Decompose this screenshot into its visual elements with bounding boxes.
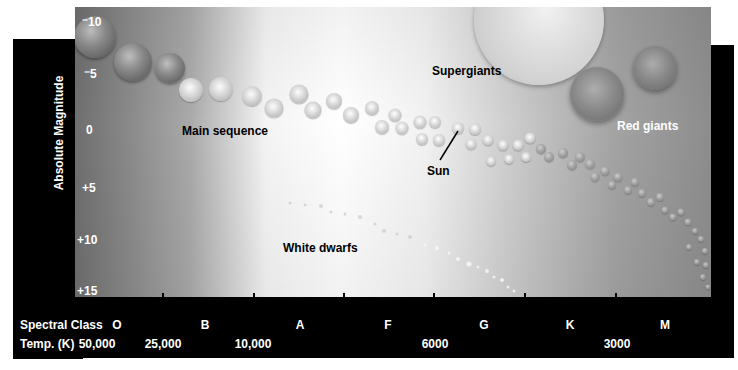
- main-sequence-star: [326, 93, 342, 109]
- spectral-class-a: A: [296, 318, 305, 332]
- white-dwarf: [319, 204, 323, 208]
- main-sequence-star: [429, 116, 441, 128]
- x-tick-mark: [343, 293, 345, 298]
- main-sequence-star: [396, 122, 409, 135]
- main-sequence-label: Main sequence: [182, 124, 268, 138]
- main-sequence-star: [469, 123, 481, 135]
- main-sequence-star: [486, 156, 496, 166]
- main-sequence-star: [647, 198, 655, 206]
- main-sequence-star: [513, 140, 524, 151]
- main-sequence-star: [692, 228, 698, 234]
- spectral-class-m: M: [660, 318, 670, 332]
- white-dwarf: [513, 290, 516, 293]
- main-sequence-star: [209, 77, 233, 101]
- main-sequence-star: [686, 244, 692, 250]
- main-sequence-star: [624, 186, 632, 194]
- spectral-class-f: F: [384, 318, 391, 332]
- y-tick-minus-10: ⁻10: [82, 15, 101, 29]
- red-giants-label: Red giants: [617, 119, 678, 133]
- y-tick-0: 0: [86, 123, 93, 137]
- white-dwarf: [382, 229, 386, 233]
- main-sequence-star: [678, 209, 685, 216]
- main-sequence-star: [698, 236, 704, 242]
- y-tick-plus-10: +10: [77, 233, 97, 247]
- temp-3000: 3000: [604, 337, 631, 351]
- main-sequence-star: [694, 259, 700, 265]
- main-sequence-star: [179, 78, 203, 102]
- white-dwarf: [507, 286, 510, 289]
- main-sequence-star: [558, 148, 568, 158]
- main-sequence-star: [544, 152, 554, 162]
- white-dwarf: [424, 244, 427, 247]
- main-sequence-star: [414, 116, 427, 129]
- frame-right: [709, 45, 734, 358]
- star-b-type: [155, 53, 185, 83]
- x-tick-mark: [253, 293, 255, 298]
- main-sequence-star: [601, 167, 610, 176]
- white-dwarf: [500, 278, 504, 282]
- spectral-class-g: G: [479, 318, 488, 332]
- main-sequence-star: [685, 219, 692, 226]
- main-sequence-star: [290, 85, 309, 104]
- main-sequence-star: [365, 101, 379, 115]
- sun-label: Sun: [427, 164, 450, 178]
- main-sequence-star: [305, 102, 322, 119]
- white-dwarf: [467, 262, 472, 267]
- y-tick-plus-5: +5: [82, 181, 96, 195]
- main-sequence-star: [433, 134, 445, 146]
- white-dwarf: [493, 276, 496, 279]
- main-sequence-star: [343, 107, 359, 123]
- main-sequence-star: [585, 159, 595, 169]
- white-dwarf: [344, 213, 347, 216]
- temp-50000: 50,000: [79, 337, 116, 351]
- star-b-type-large: [114, 43, 152, 81]
- white-dwarf: [330, 211, 333, 214]
- white-dwarf: [485, 269, 489, 273]
- temp-10000: 10,000: [235, 337, 272, 351]
- white-dwarfs-label: White dwarfs: [283, 241, 358, 255]
- spectral-class-k: K: [566, 318, 575, 332]
- main-sequence-star: [416, 133, 428, 145]
- main-sequence-star: [575, 152, 585, 162]
- main-sequence-star: [670, 214, 677, 221]
- spectral-class-o: O: [112, 318, 121, 332]
- main-sequence-star: [242, 86, 262, 106]
- x-tick-mark: [433, 293, 435, 298]
- spectral-class-label: Spectral Class: [20, 318, 103, 332]
- sun-star: [452, 122, 464, 134]
- main-sequence-star: [504, 154, 514, 164]
- main-sequence-star: [567, 160, 577, 170]
- main-sequence-star: [631, 178, 639, 186]
- y-axis-label: Absolute Magnitude: [52, 76, 66, 191]
- y-tick-minus-5: ⁻5: [84, 67, 97, 81]
- main-sequence-star: [521, 152, 531, 162]
- white-dwarf: [358, 215, 362, 219]
- x-tick-mark: [162, 293, 164, 298]
- spectral-class-b: B: [201, 318, 210, 332]
- white-dwarf: [435, 246, 439, 250]
- plot-area: [75, 7, 711, 297]
- x-tick-mark: [524, 293, 526, 298]
- main-sequence-star: [525, 133, 536, 144]
- white-dwarf: [477, 266, 480, 269]
- main-sequence-star: [389, 109, 402, 122]
- main-sequence-star: [614, 173, 623, 182]
- main-sequence-star: [375, 120, 389, 134]
- supergiants-label: Supergiants: [432, 64, 501, 78]
- main-sequence-star: [608, 181, 616, 189]
- main-sequence-star: [706, 285, 711, 290]
- y-tick-plus-15: +15: [77, 284, 97, 298]
- main-sequence-star: [498, 140, 509, 151]
- main-sequence-star: [591, 173, 600, 182]
- white-dwarf: [396, 233, 399, 236]
- main-sequence-star: [656, 193, 664, 201]
- red-giant-star-large: [570, 67, 624, 121]
- temp-6000: 6000: [422, 337, 449, 351]
- white-dwarf: [289, 202, 292, 205]
- main-sequence-star: [265, 99, 284, 118]
- red-giant-star: [633, 46, 677, 90]
- main-sequence-star: [702, 248, 708, 254]
- main-sequence-star: [700, 274, 706, 280]
- temperature-label: Temp. (K): [20, 337, 74, 351]
- main-sequence-star: [483, 135, 494, 146]
